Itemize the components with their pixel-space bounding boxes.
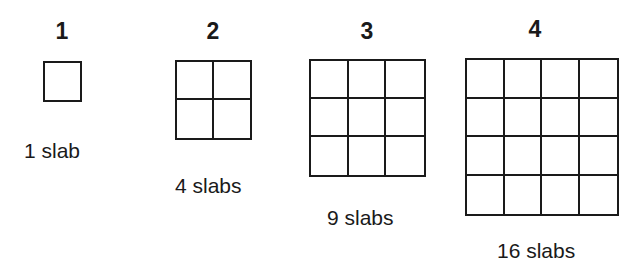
slab-cell [542, 176, 580, 215]
slab-cell [542, 99, 580, 138]
figure-number: 1 [42, 20, 82, 43]
slab-grid-3x3 [309, 59, 426, 177]
slab-cell [214, 62, 251, 100]
figure-label: 9 slabs [327, 207, 394, 228]
slab-cell [177, 100, 214, 138]
slab-cell [505, 99, 543, 138]
slab-cell [45, 63, 80, 100]
figure-label: 1 slab [24, 140, 80, 161]
slab-cell [580, 137, 618, 176]
slab-cell [580, 176, 618, 215]
slab-cell [467, 176, 505, 215]
figure-number: 2 [193, 20, 233, 43]
slab-cell [386, 61, 424, 99]
slab-grid-1x1 [43, 61, 82, 102]
slab-cell [505, 60, 543, 99]
slab-cell [580, 99, 618, 138]
slab-grid-4x4 [465, 58, 619, 216]
slab-cell [542, 60, 580, 99]
slab-cell [580, 60, 618, 99]
figure-number: 4 [515, 18, 555, 41]
slab-cell [386, 99, 424, 137]
slab-cell [505, 176, 543, 215]
slab-cell [349, 99, 387, 137]
figure-label: 16 slabs [497, 240, 575, 261]
slab-cell [311, 61, 349, 99]
slab-cell [177, 62, 214, 100]
slab-grid-2x2 [175, 60, 252, 140]
slab-cell [467, 137, 505, 176]
slab-cell [311, 137, 349, 175]
slab-cell [311, 99, 349, 137]
slab-cell [386, 137, 424, 175]
figure-label: 4 slabs [175, 175, 242, 196]
slab-cell [467, 60, 505, 99]
slab-cell [542, 137, 580, 176]
figure-number: 3 [347, 20, 387, 43]
slab-cell [349, 61, 387, 99]
slab-cell [467, 99, 505, 138]
slab-cell [214, 100, 251, 138]
slab-cell [349, 137, 387, 175]
slab-cell [505, 137, 543, 176]
